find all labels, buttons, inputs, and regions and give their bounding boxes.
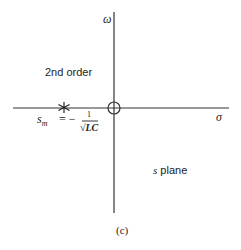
order-label: 2nd order <box>45 66 92 78</box>
figure-caption: (c) <box>116 224 128 236</box>
plane-word: plane <box>160 164 187 176</box>
pole-formula-denominator: √LC <box>80 122 98 133</box>
sigma-axis-label: σ <box>216 110 222 125</box>
s-variable: s <box>153 164 157 176</box>
s-plane-label: s plane <box>153 164 187 176</box>
pole-formula-lhs: sm <box>37 112 47 128</box>
pole-formula-numerator: 1 <box>87 110 91 119</box>
pole-formula-equals: = − <box>59 112 76 127</box>
omega-axis-label: ω <box>103 12 111 27</box>
